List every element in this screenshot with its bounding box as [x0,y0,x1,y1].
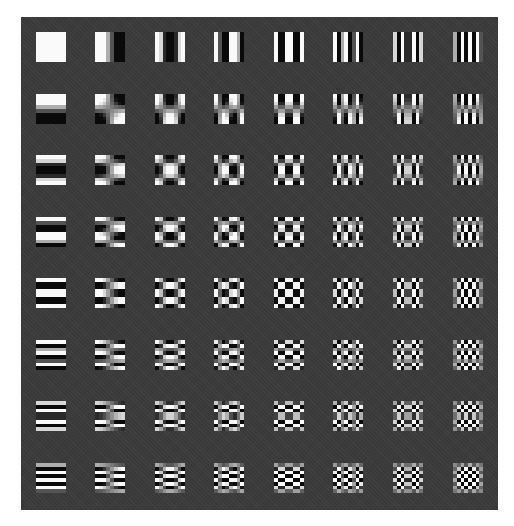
basis-pixel [62,427,66,431]
basis-pixel [419,304,423,308]
dct-basis-cell [453,217,483,247]
dct-basis-cell [36,94,66,124]
dct-basis-cell [214,32,244,62]
dct-basis-cell [333,278,363,308]
dct-basis-cell [333,94,363,124]
dct-basis-cell [393,463,423,493]
dct-basis-cell [453,463,483,493]
dct-basis-cell [453,340,483,370]
basis-pixel [359,120,363,124]
dct-basis-cell [274,155,304,185]
dct-basis-cell [453,94,483,124]
basis-pixel [181,243,185,247]
dct-basis-cell [36,278,66,308]
dct-basis-cell [274,217,304,247]
basis-pixel [359,304,363,308]
dct-basis-panel [21,17,498,510]
basis-pixel [419,120,423,124]
dct-basis-cell [393,32,423,62]
basis-pixel [181,427,185,431]
basis-pixel [479,489,483,493]
basis-pixel [479,427,483,431]
basis-pixel [62,58,66,62]
basis-pixel [479,366,483,370]
basis-pixel [359,243,363,247]
dct-basis-cell [393,155,423,185]
basis-pixel [121,427,125,431]
dct-basis-cell [393,401,423,431]
dct-basis-cell [214,94,244,124]
basis-pixel [419,366,423,370]
dct-basis-cell [453,401,483,431]
basis-pixel [479,120,483,124]
dct-basis-cell [333,401,363,431]
basis-pixel [121,304,125,308]
dct-basis-cell [214,401,244,431]
basis-pixel [359,427,363,431]
basis-pixel [240,58,244,62]
dct-basis-cell [274,32,304,62]
dct-basis-cell [214,217,244,247]
dct-basis-cell [214,278,244,308]
basis-pixel [181,489,185,493]
basis-pixel [62,120,66,124]
basis-pixel [121,181,125,185]
basis-pixel [419,58,423,62]
dct-basis-cell [274,463,304,493]
dct-basis-cell [155,32,185,62]
basis-pixel [479,58,483,62]
dct-basis-cell [333,32,363,62]
basis-pixel [240,489,244,493]
basis-pixel [121,58,125,62]
dct-basis-cell [214,340,244,370]
basis-pixel [121,489,125,493]
dct-basis-cell [333,155,363,185]
dct-basis-cell [155,401,185,431]
basis-pixel [121,366,125,370]
basis-pixel [419,243,423,247]
dct-basis-cell [214,155,244,185]
dct-basis-cell [333,340,363,370]
basis-pixel [240,366,244,370]
dct-basis-cell [36,217,66,247]
basis-pixel [300,366,304,370]
basis-pixel [359,58,363,62]
dct-basis-cell [393,217,423,247]
basis-pixel [300,181,304,185]
basis-pixel [121,243,125,247]
dct-basis-cell [36,463,66,493]
dct-basis-cell [95,32,125,62]
basis-pixel [181,58,185,62]
basis-pixel [300,427,304,431]
basis-pixel [240,243,244,247]
basis-pixel [181,181,185,185]
dct-basis-cell [95,340,125,370]
basis-pixel [479,181,483,185]
dct-basis-cell [274,340,304,370]
basis-pixel [62,366,66,370]
dct-basis-cell [393,94,423,124]
basis-pixel [300,489,304,493]
basis-pixel [479,304,483,308]
basis-pixel [300,58,304,62]
basis-pixel [62,489,66,493]
dct-basis-cell [36,32,66,62]
basis-pixel [181,120,185,124]
dct-basis-cell [274,401,304,431]
basis-pixel [121,120,125,124]
basis-pixel [181,304,185,308]
basis-pixel [479,243,483,247]
dct-basis-cell [274,94,304,124]
dct-basis-cell [155,463,185,493]
basis-pixel [419,427,423,431]
basis-pixel [240,181,244,185]
dct-basis-cell [95,217,125,247]
basis-pixel [300,304,304,308]
dct-basis-cell [155,340,185,370]
dct-basis-cell [155,278,185,308]
dct-basis-cell [453,155,483,185]
dct-basis-cell [36,401,66,431]
dct-basis-cell [36,155,66,185]
basis-pixel [359,181,363,185]
dct-basis-cell [274,278,304,308]
